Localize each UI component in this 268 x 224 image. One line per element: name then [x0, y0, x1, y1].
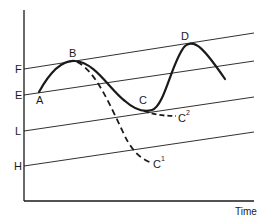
label-f: F: [15, 63, 22, 75]
c2-dashed-curve: [144, 111, 176, 116]
point-c-label: C: [139, 94, 147, 106]
point-b-label: B: [69, 47, 76, 59]
point-a-label: A: [36, 94, 44, 106]
line-h: [24, 132, 254, 166]
c1-label: C: [153, 158, 161, 170]
main-curve: [39, 44, 225, 111]
diagram-canvas: F E L H A B C D C 2 C 1 Time: [0, 0, 268, 224]
line-f: [24, 33, 254, 69]
c2-label: C: [178, 112, 186, 124]
c1-dashed-curve: [77, 62, 152, 163]
label-e: E: [15, 89, 22, 101]
label-h: H: [14, 160, 22, 172]
point-d-label: D: [181, 30, 189, 42]
label-l: L: [15, 125, 21, 137]
c2-superscript: 2: [186, 109, 190, 116]
c1-superscript: 1: [161, 155, 165, 162]
x-axis-label: Time: [235, 206, 257, 217]
